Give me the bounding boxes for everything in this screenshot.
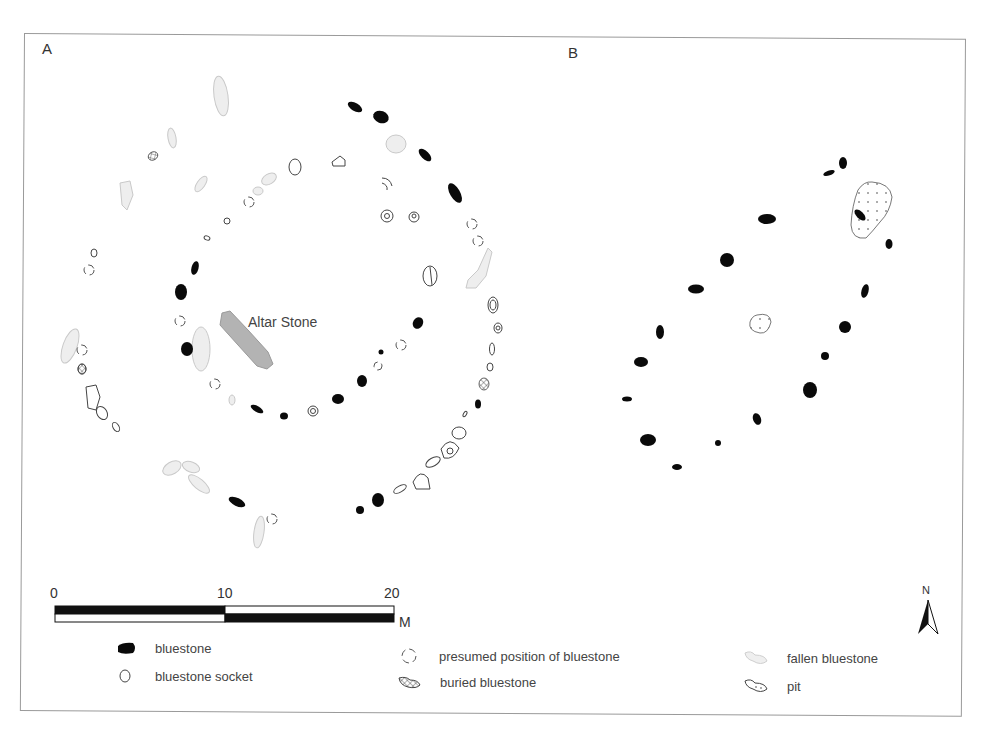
legend-buried-bluestone: buried bluestone xyxy=(396,674,536,690)
fallen-bluestone-icon xyxy=(743,649,771,667)
legend-bluestone: bluestone xyxy=(115,640,211,656)
presumed-position-icon xyxy=(399,647,423,665)
fallen-bluestones xyxy=(57,75,492,548)
bluestones-b xyxy=(622,157,893,470)
legend-fallen-bluestone: fallen bluestone xyxy=(743,649,878,667)
legend-pit: pit xyxy=(743,677,801,695)
bluestones-a xyxy=(175,100,481,514)
legend-bluestone-socket: bluestone socket xyxy=(115,668,253,684)
altar-stone-label: Altar Stone xyxy=(248,314,317,330)
legend-presumed-position: presumed position of bluestone xyxy=(399,647,620,665)
bluestone-icon xyxy=(115,640,139,656)
north-arrow-icon xyxy=(918,600,938,634)
panel-a-plan xyxy=(57,75,502,548)
scale-tick-20: 20 xyxy=(384,585,400,601)
scale-tick-10: 10 xyxy=(217,585,233,601)
bluestone-socket-icon xyxy=(115,668,139,684)
pit-icon xyxy=(743,677,771,695)
pit-small xyxy=(750,314,771,333)
buried-bluestone-icon xyxy=(396,674,424,690)
stonehenge-bluestone-plan xyxy=(0,0,991,737)
buried-bluestones-a xyxy=(78,150,489,390)
scale-bar xyxy=(55,606,394,622)
panel-b-label: B xyxy=(568,44,578,61)
scale-unit: M xyxy=(399,614,411,630)
panel-b-plan xyxy=(622,157,893,470)
panel-a-label: A xyxy=(42,40,52,57)
north-label: N xyxy=(922,584,930,596)
scale-tick-0: 0 xyxy=(50,585,58,601)
presumed-positions-a xyxy=(77,197,483,524)
